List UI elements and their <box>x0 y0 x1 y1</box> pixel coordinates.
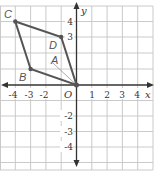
label-b: B <box>19 71 26 83</box>
label-d: D <box>49 39 57 51</box>
x-tick-neg3: -3 <box>25 90 34 100</box>
x-tick-neg2: -2 <box>40 90 49 100</box>
x-axis-left-arrow-icon <box>1 82 8 88</box>
y-tick-neg3: -3 <box>64 127 73 137</box>
x-tick-4: 4 <box>134 90 140 100</box>
y-tick-3: 3 <box>67 32 73 42</box>
x-tick-2: 2 <box>104 90 110 100</box>
y-axis-down-arrow-icon <box>74 160 80 167</box>
x-tick-3: 3 <box>119 90 125 100</box>
coordinate-plane: C D B A y x O -4 -3 -2 1 2 3 4 4 3 -2 -3… <box>0 0 159 172</box>
label-a: A <box>50 54 58 66</box>
y-axis-up-arrow-icon <box>74 2 80 9</box>
y-tick-4: 4 <box>67 17 73 27</box>
x-tick-1: 1 <box>89 90 95 100</box>
x-axis-label: x <box>145 89 151 100</box>
y-tick-neg2: -2 <box>64 111 73 121</box>
y-axis-label: y <box>80 5 87 16</box>
x-tick-neg4: -4 <box>9 90 18 100</box>
y-tick-neg4: -4 <box>64 142 73 152</box>
origin-label: O <box>64 89 72 100</box>
label-c: C <box>4 8 12 20</box>
